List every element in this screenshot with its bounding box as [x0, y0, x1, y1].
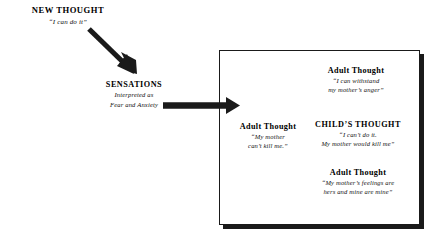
node-adult-thought-feelings-line1: “My mother’s feelings are: [296, 179, 420, 187]
node-adult-thought-withstand: Adult Thought “I can withstand my mother…: [302, 66, 410, 94]
node-childs-thought-line2: My mother would kill me”: [300, 140, 416, 148]
diagram-canvas: NEW THOUGHT “I can do it” SENSATIONS Int…: [0, 0, 435, 248]
node-childs-thought-line1: “I can’t do it.: [300, 131, 416, 139]
node-sensations: SENSATIONS Interpreted as Fear and Anxie…: [90, 80, 178, 109]
diagonal-arrow: [89, 29, 137, 74]
node-childs-thought: CHILD’S THOUGHT “I can’t do it. My mothe…: [300, 120, 416, 148]
node-sensations-label: SENSATIONS: [90, 80, 178, 89]
node-adult-thought-withstand-line2: my mother’s anger”: [302, 86, 410, 94]
node-adult-thought-feelings-line2: hers and mine are mine”: [296, 188, 420, 196]
node-adult-thought-withstand-label: Adult Thought: [302, 66, 410, 75]
node-adult-thought-withstand-line1: “I can withstand: [302, 77, 410, 85]
node-sensations-line1: Interpreted as: [90, 91, 178, 99]
node-new-thought-label: NEW THOUGHT: [18, 6, 118, 16]
node-childs-thought-label: CHILD’S THOUGHT: [300, 120, 416, 129]
node-adult-thought-feelings-label: Adult Thought: [296, 168, 420, 177]
node-sensations-line2: Fear and Anxiety: [90, 101, 178, 109]
node-adult-thought-feelings: Adult Thought “My mother’s feelings are …: [296, 168, 420, 196]
node-new-thought: NEW THOUGHT “I can do it”: [18, 6, 118, 26]
node-new-thought-quote: “I can do it”: [18, 18, 118, 26]
